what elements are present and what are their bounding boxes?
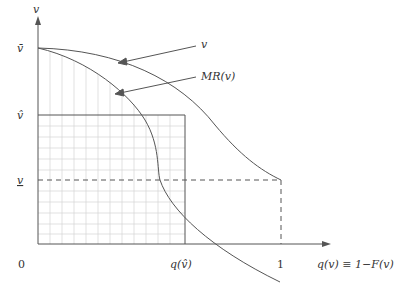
arrow-head-icon — [118, 58, 127, 65]
y-axis-label: v — [33, 3, 40, 16]
reserve-dashed-lines — [38, 180, 281, 244]
axes — [35, 16, 331, 247]
x-axis-label: q(v) ≡ 1−F(v) — [317, 258, 394, 271]
y-axis-arrow-icon — [35, 16, 41, 25]
tick-v-underline: v — [17, 174, 24, 187]
tick-v-bar: v̄ — [17, 42, 24, 55]
revenue-diagram: v v̄ v̂ v v MR(v) 0 q(v̂) 1 q(v) ≡ 1−F(v… — [0, 0, 400, 292]
x-axis-arrow-icon — [322, 241, 331, 247]
tick-one: 1 — [277, 258, 284, 271]
mr-curve-label: MR(v) — [200, 70, 235, 83]
v-curve-label: v — [201, 38, 208, 51]
origin-label: 0 — [18, 258, 25, 271]
tick-v-hat: v̂ — [17, 109, 24, 122]
grid-hatching — [38, 52, 185, 244]
annotation-arrows — [115, 46, 196, 96]
v-curve — [38, 48, 281, 180]
tick-q-v-hat: q(v̂) — [170, 258, 192, 271]
